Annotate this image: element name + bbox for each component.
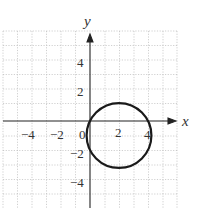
y-axis-arrow-icon (87, 34, 93, 42)
circle-plot: x y −4 −2 0 2 4 4 2 −2 −4 (0, 0, 208, 208)
y-axis-label: y (82, 13, 91, 29)
y-tick-label: 4 (77, 55, 84, 70)
y-tick-label: 2 (77, 84, 84, 99)
x-tick-label: 4 (144, 127, 151, 142)
x-axis-arrow-icon (168, 118, 176, 124)
y-tick-label: −2 (70, 146, 84, 161)
chart-container: x y −4 −2 0 2 4 4 2 −2 −4 (0, 0, 208, 208)
origin-label: 0 (79, 127, 86, 142)
x-tick-label: −4 (21, 127, 35, 142)
y-tick-label: −4 (70, 175, 84, 190)
x-tick-label: −2 (50, 127, 64, 142)
x-tick-label: 2 (115, 125, 122, 140)
x-axis-label: x (181, 113, 189, 129)
